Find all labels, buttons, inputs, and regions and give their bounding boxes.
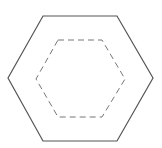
outer-hexagon [8, 16, 153, 141]
inner-hexagon-dashed [36, 40, 125, 117]
hexagon-diagram [0, 0, 162, 148]
